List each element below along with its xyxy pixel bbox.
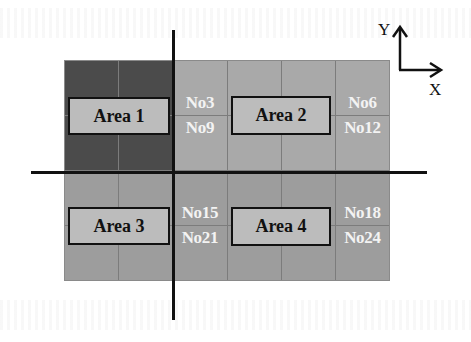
cell-no6: No6 (336, 61, 389, 115)
area-1-label: Area 1 (68, 97, 170, 135)
cell-no15: No15 (173, 171, 226, 225)
cell-no24: No24 (336, 226, 389, 280)
cell-no18: No18 (336, 171, 389, 225)
cell-no12: No12 (336, 116, 389, 170)
x-axis-label: X (429, 80, 441, 100)
area-2-label: Area 2 (231, 96, 331, 135)
bleed-through-text-bottom (0, 300, 471, 330)
area-4-label: Area 4 (231, 207, 331, 246)
area-3-label: Area 3 (68, 207, 170, 245)
cell-no21: No21 (173, 226, 226, 280)
xy-axes-icon (390, 22, 450, 82)
y-axis-label: Y (378, 20, 390, 40)
horizontal-divider-line (31, 171, 427, 174)
cell-no9: No9 (173, 116, 226, 170)
cell-no3: No3 (173, 61, 226, 115)
vertical-divider-line (172, 30, 175, 320)
